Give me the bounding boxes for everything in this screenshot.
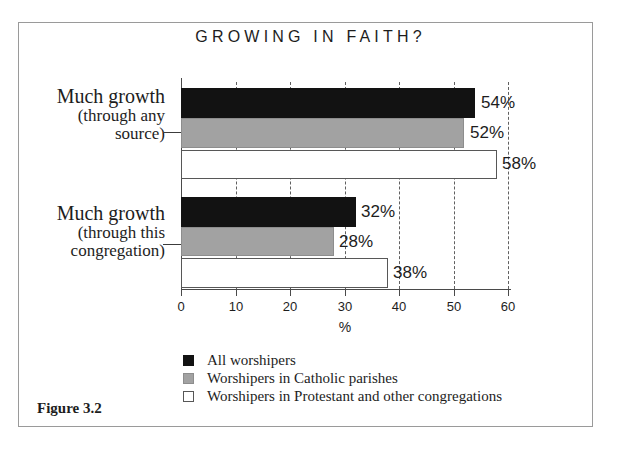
- tick-label-60: 60: [501, 299, 515, 314]
- tick-mark-0: [181, 289, 182, 296]
- figure-container: GROWING IN FAITH? Much growth (through a…: [0, 0, 617, 449]
- bar-value-group2-all-worshipers: 32%: [361, 202, 395, 222]
- category-label-line-1: Much growth: [25, 86, 165, 107]
- tick-mark-40: [399, 289, 400, 296]
- legend-item-all-worshipers[interactable]: All worshipers: [183, 351, 502, 369]
- tick-label-40: 40: [392, 299, 406, 314]
- tick-label-30: 30: [338, 299, 352, 314]
- tick-label-50: 50: [447, 299, 461, 314]
- legend-label-all-worshipers: All worshipers: [207, 352, 296, 369]
- tick-label-20: 20: [283, 299, 297, 314]
- bar-group2-protestant-other[interactable]: [181, 258, 388, 288]
- bar-group2-all-worshipers[interactable]: [181, 197, 356, 227]
- tick-mark-10: [236, 289, 237, 296]
- legend-label-protestant-other: Worshipers in Protestant and other congr…: [207, 388, 502, 405]
- tick-mark-20: [290, 289, 291, 296]
- bar-value-group1-protestant-other: 58%: [502, 154, 536, 174]
- figure-caption: Figure 3.2: [37, 400, 102, 417]
- bar-group1-catholic-parishes[interactable]: [181, 118, 464, 148]
- bar-group1-all-worshipers[interactable]: [181, 88, 475, 118]
- tick-label-0: 0: [177, 299, 184, 314]
- tick-mark-30: [345, 289, 346, 296]
- bar-value-group1-all-worshipers: 54%: [481, 93, 515, 113]
- bar-group1-protestant-other[interactable]: [181, 150, 497, 179]
- tick-label-10: 10: [229, 299, 243, 314]
- category-label-line-1: Much growth: [25, 203, 165, 224]
- legend-swatch-white-icon: [183, 391, 194, 402]
- tick-mark-50: [454, 289, 455, 296]
- bar-value-group2-protestant-other: 38%: [393, 263, 427, 283]
- legend-swatch-black-icon: [183, 355, 194, 366]
- category-label-much-growth-this-congregation: Much growth (through this congregation): [25, 203, 165, 260]
- x-axis-line: [181, 289, 511, 290]
- bar-value-group1-catholic-parishes: 52%: [470, 123, 504, 143]
- tick-mark-60: [508, 289, 509, 296]
- bar-group2-catholic-parishes[interactable]: [181, 227, 334, 256]
- x-axis-title: %: [339, 319, 351, 335]
- gridline-60b: [508, 82, 509, 289]
- category-leader-line-2: [163, 244, 182, 245]
- category-label-line-2: (through this: [25, 224, 165, 242]
- category-label-line-3: source): [25, 125, 165, 143]
- chart-legend: All worshipers Worshipers in Catholic pa…: [183, 351, 502, 405]
- legend-label-catholic-parishes: Worshipers in Catholic parishes: [207, 370, 398, 387]
- category-label-line-2: (through any: [25, 107, 165, 125]
- bar-value-group2-catholic-parishes: 28%: [339, 232, 373, 252]
- category-label-line-3: congregation): [25, 242, 165, 260]
- legend-item-protestant-other[interactable]: Worshipers in Protestant and other congr…: [183, 387, 502, 405]
- category-leader-line-1: [163, 132, 182, 133]
- chart-title: GROWING IN FAITH?: [0, 28, 617, 46]
- category-label-much-growth-any-source: Much growth (through any source): [25, 86, 165, 143]
- legend-item-catholic-parishes[interactable]: Worshipers in Catholic parishes: [183, 369, 502, 387]
- legend-swatch-gray-icon: [183, 373, 194, 384]
